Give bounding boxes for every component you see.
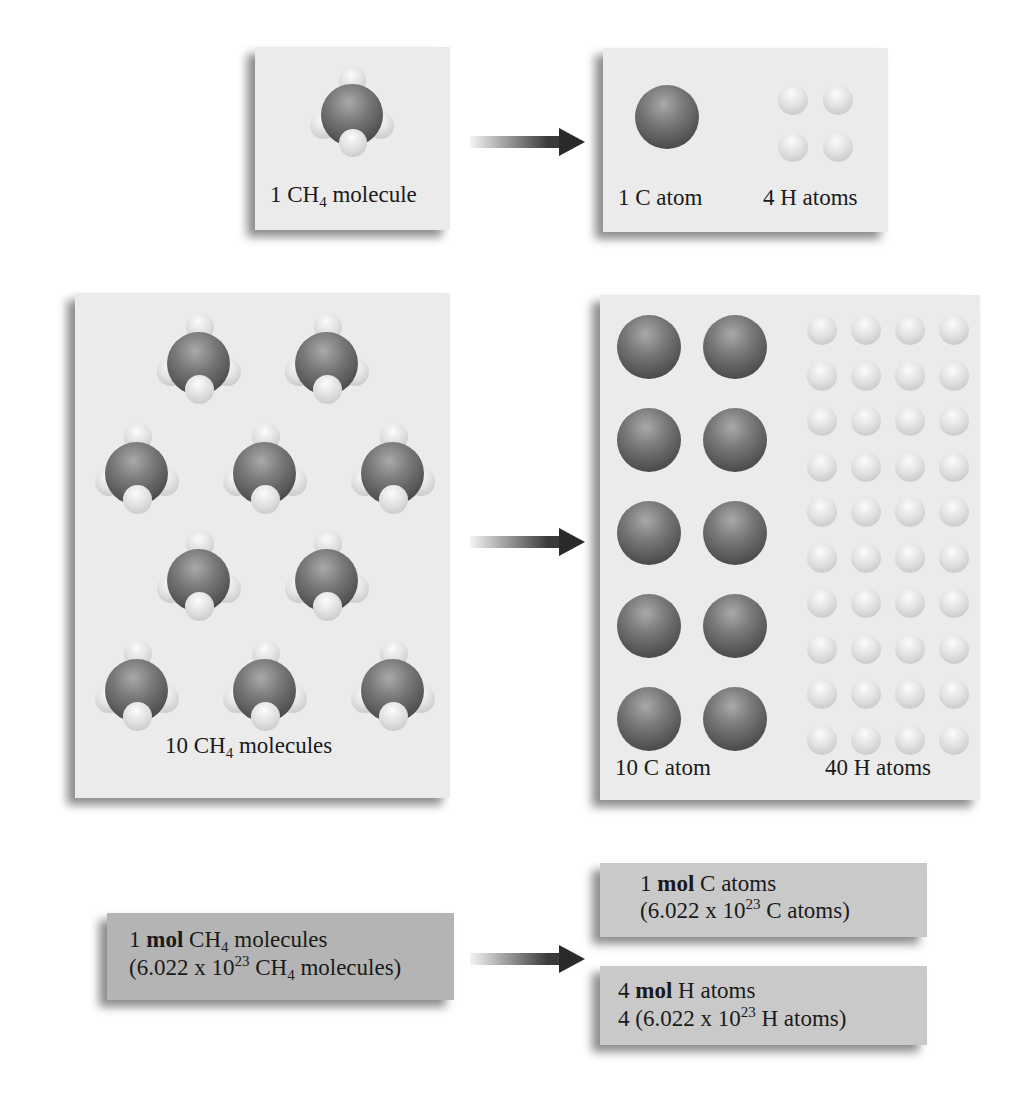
hydrogen-atom-icon [851,452,881,482]
hydrogen-atom-icon [851,634,881,664]
c-atom-count-label: 1 C atom [618,185,702,211]
carbon-atom-icon [703,408,767,472]
mole-hydrogen-panel: 4 mol H atoms 4 (6.022 x 1023 H atoms) [600,966,927,1045]
methane-molecule [95,640,179,730]
hydrogen-atom-icon [807,361,837,391]
hydrogen-atom-icon [939,315,969,345]
hydrogen-atom-icon [251,485,280,514]
hydrogen-atom-icon [807,588,837,618]
hydrogen-atom-icon [185,375,214,404]
hydrogen-atom-icon [807,497,837,527]
hydrogen-atom-icon [339,129,367,157]
hydrogen-atom-icon [939,543,969,573]
hydrogen-atom-icon [939,725,969,755]
hydrogen-atom-icon [379,702,408,731]
hydrogen-atom-icon [823,85,853,115]
hydrogen-atom-icon [895,725,925,755]
hydrogen-atom-icon [895,361,925,391]
methane-molecule [223,640,307,730]
hydrogen-atom-icon [939,406,969,436]
hydrogen-atom-icon [379,485,408,514]
hydrogen-atom-icon [895,543,925,573]
hydrogen-atom-icon [939,497,969,527]
hydrogen-atom-icon [851,543,881,573]
hydrogen-atom-icon [939,679,969,709]
carbon-atom-icon [703,687,767,751]
h-atom-count-label: 40 H atoms [825,755,931,781]
hydrogen-atom-icon [807,725,837,755]
mole-hydrogen-line1: 4 mol H atoms [618,978,755,1004]
hydrogen-atom-icon [851,679,881,709]
hydrogen-atom-icon [895,679,925,709]
hydrogen-atom-icon [895,634,925,664]
hydrogen-atom-icon [313,592,342,621]
ten-molecules-label: 10 CH4 molecules [165,733,332,759]
hydrogen-atom-icon [939,452,969,482]
mole-molecules-line2: (6.022 x 1023 CH4 molecules) [129,955,401,981]
ten-molecules-panel: 10 CH4 molecules [75,293,450,798]
hydrogen-atom-icon [851,588,881,618]
arrow-icon [470,536,585,548]
hydrogen-atom-icon [823,132,853,162]
methane-molecule [351,423,435,513]
single-molecule-panel: 1 CH4 molecule [255,47,450,230]
hydrogen-atom-icon [807,679,837,709]
h-atom-count-label: 4 H atoms [763,185,858,211]
methane-molecule [95,423,179,513]
hydrogen-atom-icon [939,588,969,618]
hydrogen-atom-icon [123,702,152,731]
methane-molecule [157,313,241,403]
mole-hydrogen-line2: 4 (6.022 x 1023 H atoms) [618,1006,846,1032]
carbon-atom-icon [617,594,681,658]
carbon-atom-icon [635,85,699,149]
hydrogen-atom-icon [939,634,969,664]
methane-molecule [157,530,241,620]
hydrogen-atom-icon [851,315,881,345]
hydrogen-atom-icon [185,592,214,621]
single-molecule-label: 1 CH4 molecule [270,182,417,208]
hydrogen-atom-icon [123,485,152,514]
methane-molecule [351,640,435,730]
hydrogen-atom-icon [851,406,881,436]
carbon-atom-icon [617,687,681,751]
methane-molecule [285,530,369,620]
carbon-atom-icon [617,315,681,379]
hydrogen-atom-icon [895,315,925,345]
hydrogen-atom-icon [778,132,808,162]
hydrogen-atom-icon [851,497,881,527]
mole-carbon-panel: 1 mol C atoms (6.022 x 1023 C atoms) [600,863,927,937]
hydrogen-atom-icon [851,361,881,391]
hydrogen-atom-icon [895,406,925,436]
hydrogen-atom-icon [251,702,280,731]
hydrogen-atom-icon [807,543,837,573]
methane-molecule [285,313,369,403]
hydrogen-atom-icon [939,361,969,391]
mole-carbon-line1: 1 mol C atoms [640,871,776,897]
hydrogen-atom-icon [895,452,925,482]
mole-carbon-line2: (6.022 x 1023 C atoms) [640,898,850,924]
mole-molecules-line1: 1 mol CH4 molecules [129,927,328,953]
hydrogen-atom-icon [895,588,925,618]
mole-molecules-panel: 1 mol CH4 molecules (6.022 x 1023 CH4 mo… [107,913,454,1000]
arrow-icon [470,136,585,148]
carbon-atom-icon [703,501,767,565]
c-atom-count-label: 10 C atom [615,755,711,781]
hydrogen-atom-icon [807,634,837,664]
hydrogen-atom-icon [807,452,837,482]
carbon-atom-icon [617,408,681,472]
hydrogen-atom-icon [895,497,925,527]
hydrogen-atom-icon [807,315,837,345]
hydrogen-atom-icon [807,406,837,436]
carbon-atom-icon [617,501,681,565]
hydrogen-atom-icon [778,85,808,115]
carbon-atom-icon [703,315,767,379]
hydrogen-atom-icon [313,375,342,404]
arrow-icon [470,953,585,965]
methane-molecule [223,423,307,513]
ten-molecule-atoms-panel: 10 C atom 40 H atoms [600,295,980,800]
methane-molecule [310,67,394,157]
carbon-atom-icon [703,594,767,658]
hydrogen-atom-icon [851,725,881,755]
single-atoms-panel: 1 C atom 4 H atoms [603,48,888,232]
